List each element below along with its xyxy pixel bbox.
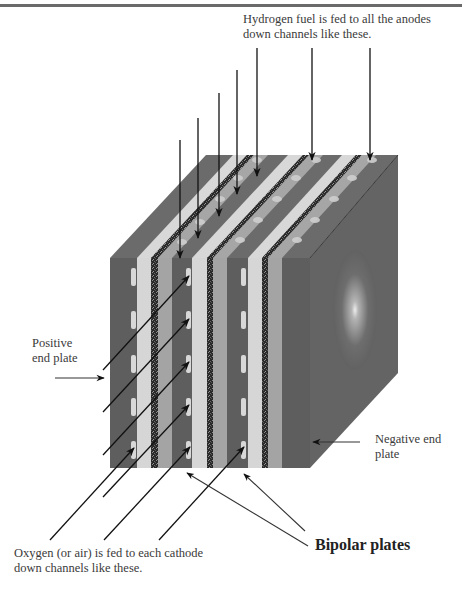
stack-front-face: [110, 258, 310, 468]
negative-end-plate: [282, 258, 310, 468]
hydrogen-label-line-1: Hydrogen fuel is fed to all the anodes: [243, 12, 431, 27]
hydrogen-label-line-2: down channels like these.: [243, 27, 431, 42]
positive-label-line-2: end plate: [32, 351, 77, 366]
hydrogen-label: Hydrogen fuel is fed to all the anodes d…: [243, 12, 431, 42]
positive-label-line-1: Positive: [32, 336, 77, 351]
positive-end-plate-label: Positive end plate: [32, 336, 77, 366]
negative-label-line-1: Negative end: [375, 432, 441, 447]
negative-label-line-2: plate: [375, 447, 441, 462]
bipolar-arrow-2: [244, 474, 305, 531]
bipolar-arrow-1: [187, 473, 308, 546]
oxygen-label-line-1: Oxygen (or air) is fed to each cathode: [14, 546, 203, 561]
oxygen-label: Oxygen (or air) is fed to each cathode d…: [14, 546, 203, 576]
bipolar-plates-label: Bipolar plates: [315, 536, 410, 554]
negative-end-plate-label: Negative end plate: [375, 432, 441, 462]
oxygen-label-line-2: down channels like these.: [14, 561, 203, 576]
fuel-cell-stack-diagram: [0, 0, 462, 590]
